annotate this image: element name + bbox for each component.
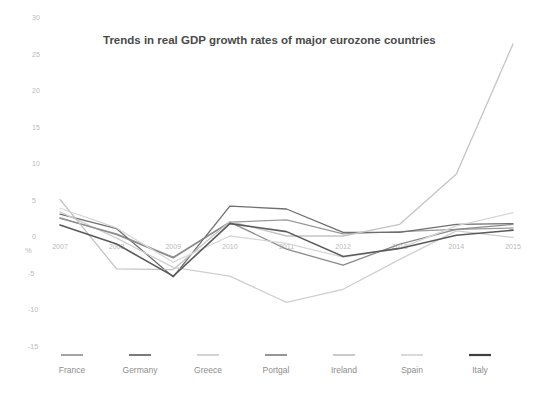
- legend-label-portgal[interactable]: Portgal: [263, 365, 290, 375]
- y-tick-label: -10: [28, 306, 38, 313]
- y-tick-label: 30: [32, 14, 40, 21]
- x-tick-label: 2015: [505, 243, 521, 250]
- y-tick-label: -15: [28, 343, 38, 350]
- x-tick-label: 2007: [52, 243, 68, 250]
- y-tick-label: 10: [32, 160, 40, 167]
- chart-title: Trends in real GDP growth rates of major…: [103, 34, 436, 46]
- legend-label-greece[interactable]: Greece: [194, 365, 222, 375]
- y-tick-label: 20: [32, 87, 40, 94]
- x-tick-label: 2010: [222, 243, 238, 250]
- legend-label-italy[interactable]: Italy: [472, 365, 488, 375]
- chart-background: [0, 0, 535, 398]
- x-tick-label: 2012: [335, 243, 351, 250]
- legend-label-germany[interactable]: Germany: [123, 365, 159, 375]
- y-axis-unit-label: %: [25, 246, 32, 255]
- y-tick-label: -5: [28, 270, 34, 277]
- legend-label-france[interactable]: France: [59, 365, 86, 375]
- x-tick-label: 2009: [165, 243, 181, 250]
- legend-label-spain[interactable]: Spain: [401, 365, 423, 375]
- x-tick-label: 2014: [449, 243, 465, 250]
- y-tick-label: 0: [32, 233, 36, 240]
- y-tick-label: 5: [32, 197, 36, 204]
- gdp-growth-line-chart: Trends in real GDP growth rates of major…: [0, 0, 535, 398]
- legend-label-ireland[interactable]: Ireland: [331, 365, 357, 375]
- y-tick-label: 15: [32, 124, 40, 131]
- y-tick-label: 25: [32, 51, 40, 58]
